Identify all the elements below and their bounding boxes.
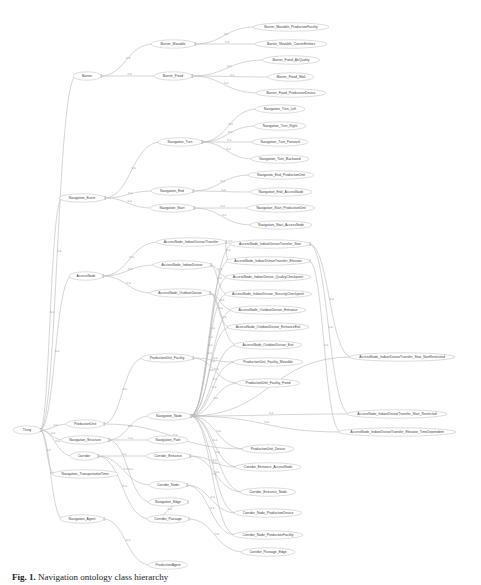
class-node-nav-agent[interactable]: Navigation_Agent xyxy=(60,515,104,523)
node-label: Navigation_Node xyxy=(156,414,182,418)
node-label: AccessNode_IndoorDivisor xyxy=(162,263,204,267)
edge-label: is-a xyxy=(224,32,229,36)
class-node-nt-backward[interactable]: Navigation_Turn_Backward xyxy=(251,155,309,163)
class-node-thing[interactable]: Thing xyxy=(13,426,41,434)
edge-label: is-a xyxy=(225,40,230,44)
node-label: Barrier_Movable_ProductionFacility xyxy=(264,25,318,29)
class-node-ce-node[interactable]: Corridor_Entrance_Node xyxy=(240,488,296,496)
class-node-ce-an[interactable]: Corridor_Entrance_AccessNode xyxy=(235,463,301,471)
class-node-nav-event[interactable]: Navigation_Event xyxy=(59,194,105,202)
class-node-nav-transport[interactable]: Navigation_TransportationTime xyxy=(52,470,118,478)
edge-label: is-a xyxy=(56,439,61,443)
class-node-an-ift-stair[interactable]: AccessNode_IndoorDivisorTransfer_Stair xyxy=(230,240,310,248)
class-node-pu-facility[interactable]: ProductionUnit_Facility xyxy=(141,354,193,362)
class-node-an-stair-r[interactable]: AccessNode_IndoorDivisorTransfer_Stair_R… xyxy=(347,410,447,418)
class-node-barrier[interactable]: Barrier xyxy=(73,72,101,80)
class-node-nt-left[interactable]: Navigation_Turn_Left xyxy=(255,105,305,113)
class-node-bm-ce[interactable]: Barrier_Movable_CarrierEntities xyxy=(255,40,327,48)
class-node-corridor-node[interactable]: Corridor_Node xyxy=(149,481,187,489)
class-node-cp-edge[interactable]: Corridor_Passage_Edge xyxy=(241,548,295,556)
node-label: Navigation_Turn_Backward xyxy=(259,157,301,161)
edge-label: is-a xyxy=(130,255,135,259)
class-node-ne-an[interactable]: Navigation_End_AccessNode xyxy=(250,188,312,196)
class-node-nav-end[interactable]: Navigation_End xyxy=(151,187,193,195)
edge-label: is-a xyxy=(54,423,59,427)
edge-label: is-a xyxy=(128,199,133,203)
class-node-access-node[interactable]: AccessNode xyxy=(69,272,103,280)
edge-label: is-a xyxy=(212,385,217,389)
class-node-pu-device[interactable]: ProductionUnit_Device xyxy=(242,445,294,453)
edge-label: is-a xyxy=(132,166,137,170)
edge-label: is-a xyxy=(215,470,220,474)
edge-label: is-a xyxy=(220,298,225,302)
node-label: Barrier_Fixed_ProductionDevice xyxy=(267,91,316,95)
edge-label: is-a xyxy=(209,368,214,372)
edge-label: is-a xyxy=(128,72,133,76)
class-node-corridor-passage[interactable]: Corridor_Passage xyxy=(147,515,189,523)
class-node-nav-turn[interactable]: Navigation_Turn xyxy=(158,138,202,146)
class-node-an-id[interactable]: AccessNode_IndoorDivisor xyxy=(153,261,211,269)
node-label: Corridor_Entrance xyxy=(154,454,182,458)
node-label: Corridor_Entrance_Node xyxy=(249,490,287,494)
edge-label: is-a xyxy=(227,138,232,142)
class-node-an-ift-elev[interactable]: AccessNode_IndoorDivisorTransfer_Elevato… xyxy=(226,257,310,265)
class-node-ne-pu[interactable]: Navigation_End_ProductionUnit xyxy=(248,171,314,179)
class-node-barrier-movable[interactable]: Barrier_Movable xyxy=(151,40,195,48)
class-node-corridor-entrance[interactable]: Corridor_Entrance xyxy=(146,452,190,460)
edge-label: is-a xyxy=(229,122,234,126)
class-node-an-od-entr[interactable]: AccessNode_OutdoorDivisor_Entrance xyxy=(230,306,306,314)
class-node-nt-right[interactable]: Navigation_Turn_Right xyxy=(254,122,306,130)
class-node-nav-structure[interactable]: Navigation_Structure xyxy=(61,436,109,444)
class-node-pu-f-fixed[interactable]: ProductionUnit_Facility_Fixed xyxy=(236,379,300,387)
class-node-production-agent[interactable]: ProductionAgent xyxy=(148,561,188,569)
node-label: AccessNode_IndoorDivisorTransfer_Elevato… xyxy=(234,259,303,263)
class-node-an-stair-nr[interactable]: AccessNode_IndoorDivisorTransfer_Stair_N… xyxy=(349,353,455,361)
class-node-cn-pd[interactable]: Corridor_Node_ProductionDevice xyxy=(234,509,302,517)
node-label: AccessNode_OutdoorDivisor_EntranceExit xyxy=(236,325,301,329)
class-node-an-elev-td[interactable]: AccessNode_IndoorDivisorTransfer_Elevato… xyxy=(338,428,456,436)
edge-label: is-a xyxy=(208,343,213,347)
edge-label: is-a xyxy=(217,429,222,433)
class-node-an-id-qc[interactable]: AccessNode_IndoorDivisor_QualityCheckpoi… xyxy=(225,273,311,281)
edge-label: is-a xyxy=(221,204,226,208)
node-label: ProductionUnit_Device xyxy=(251,447,286,451)
edge-label: is-a xyxy=(51,431,56,435)
class-node-nav-start[interactable]: Navigation_Start xyxy=(150,204,194,212)
class-node-an-od-exit[interactable]: AccessNode_OutdoorDivisor_Exit xyxy=(234,341,302,349)
class-node-ns-pu[interactable]: Navigation_Start_ProductionUnit xyxy=(247,204,315,212)
node-label: AccessNode_IndoorDivisorTransfer_Stair xyxy=(239,242,302,246)
edge-label: is-a xyxy=(215,532,220,536)
class-node-bm-pf[interactable]: Barrier_Movable_ProductionFacility xyxy=(253,23,329,31)
class-node-corridor[interactable]: Corridor xyxy=(70,452,98,460)
class-node-cn-pf[interactable]: Corridor_Node_ProductionFacility xyxy=(233,531,303,539)
class-node-production-unit[interactable]: ProductionUnit xyxy=(66,420,104,428)
class-node-bf-wall[interactable]: Barrier_Fixed_Wall xyxy=(268,73,314,81)
figure-caption: Fig. 1. Navigation ontology class hierar… xyxy=(12,572,481,582)
node-label: Corridor_Entrance_AccessNode xyxy=(244,465,293,469)
class-node-pu-f-movable[interactable]: ProductionUnit_Facility_Movable xyxy=(233,358,303,366)
node-label: AccessNode_OutdoorDivisor_Exit xyxy=(242,343,293,347)
class-node-an-od[interactable]: AccessNode_OutdoorDivisor xyxy=(150,289,210,297)
class-node-nav-node[interactable]: Navigation_Node xyxy=(147,412,191,420)
edge-label: is-a xyxy=(330,297,335,301)
edge-label: is-a xyxy=(324,343,329,347)
node-label: Navigation_TransportationTime xyxy=(61,472,108,476)
node-label: Navigation_Path xyxy=(156,438,181,442)
class-node-ns-an[interactable]: Navigation_Start_AccessNode xyxy=(250,221,312,229)
class-node-barrier-fixed[interactable]: Barrier_Fixed xyxy=(154,72,192,80)
class-node-nt-forward[interactable]: Navigation_Turn_Forward xyxy=(252,138,308,146)
class-node-nav-path[interactable]: Navigation_Path xyxy=(148,436,188,444)
node-label: AccessNode xyxy=(76,274,95,278)
class-node-an-od-entrexit[interactable]: AccessNode_OutdoorDivisor_EntranceExit xyxy=(227,323,309,331)
class-node-an-id-sc[interactable]: AccessNode_IndoorDivisor_SecurityCheckpo… xyxy=(224,290,312,298)
node-label: Corridor xyxy=(78,454,91,458)
edge-label: is-a xyxy=(128,424,133,428)
node-label: AccessNode_IndoorDivisorTransfer_Stair_N… xyxy=(359,355,445,359)
edge-label: is-a xyxy=(230,73,235,77)
class-node-bf-pd[interactable]: Barrier_Fixed_ProductionDevice xyxy=(256,89,326,97)
class-node-an-ift[interactable]: AccessNode_IndoorDivisor/Transfer xyxy=(156,238,226,246)
edge-label: is-a xyxy=(55,349,60,353)
class-node-nav-edge[interactable]: Navigation_Edge xyxy=(148,498,188,506)
node-label: ProductionUnit_Facility xyxy=(150,356,185,360)
class-node-bf-aq[interactable]: Barrier_Fixed_AirQuality xyxy=(262,56,320,64)
